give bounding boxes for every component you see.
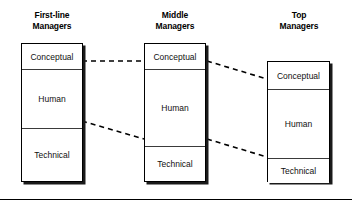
band-label: Human [161,103,188,113]
column-first-line: First-line Managers Conceptual Human Tec… [16,10,88,185]
column-title-middle: Middle Managers [139,10,211,31]
column-middle: Middle Managers Conceptual Human Technic… [139,10,211,185]
band-label: Technical [34,150,69,160]
band-label: Conceptual [30,52,73,62]
stack-top: Conceptual Human Technical [267,61,330,182]
bottom-divider-rule [0,199,352,200]
band-label: Technical [157,159,192,169]
column-top: Top Managers Conceptual Human Technical [262,10,336,185]
column-title-first-line: First-line Managers [16,10,88,31]
band-label: Conceptual [277,71,320,81]
band-technical-middle: Technical [145,146,205,180]
band-technical-top: Technical [268,158,329,183]
band-technical-first-line: Technical [22,128,82,180]
band-label: Conceptual [153,52,196,62]
stack-first-line: Conceptual Human Technical [21,43,83,182]
band-conceptual-middle: Conceptual [145,44,205,69]
band-human-top: Human [268,89,329,158]
band-label: Human [285,119,312,129]
band-label: Technical [281,166,316,176]
connector-human-technical-right [207,139,267,157]
band-human-first-line: Human [22,69,82,128]
band-label: Human [38,94,65,104]
stack-middle: Conceptual Human Technical [144,43,206,182]
band-conceptual-first-line: Conceptual [22,44,82,69]
connector-human-technical [82,121,144,139]
connector-conceptual-human-right [207,61,267,79]
band-conceptual-top: Conceptual [268,62,329,89]
column-title-top: Top Managers [262,10,336,31]
band-human-middle: Human [145,69,205,146]
skill-mix-diagram: First-line Managers Conceptual Human Tec… [0,0,352,213]
